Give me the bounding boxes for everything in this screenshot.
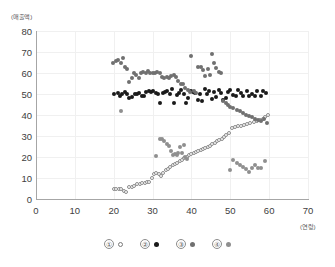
legend-series-number: ③ [176, 239, 186, 249]
gridline-horizontal [36, 52, 308, 53]
data-point-series-4 [247, 170, 251, 174]
legend-item-2[interactable]: ② [140, 239, 159, 249]
data-point-series-2 [125, 92, 129, 96]
y-tick-label: 20 [8, 152, 32, 163]
y-tick-label: 40 [8, 110, 32, 121]
x-axis-line [36, 199, 309, 200]
y-axis-unit-label: (매출액) [11, 12, 32, 21]
scatter-chart-figure: (매출액) 01020304050607080 010203040506070 … [0, 0, 335, 267]
y-tick-label: 80 [8, 26, 32, 37]
data-point-series-2 [168, 92, 172, 96]
legend-item-4[interactable]: ④ [212, 239, 231, 249]
data-point-series-1 [150, 176, 154, 180]
data-point-series-4 [185, 157, 189, 161]
legend-item-1[interactable]: ① [104, 239, 123, 249]
data-point-series-2 [198, 92, 202, 96]
legend-series-number: ① [104, 239, 114, 249]
x-tick-label: 50 [218, 205, 242, 216]
data-point-series-3 [181, 82, 185, 86]
legend-marker-icon [190, 242, 195, 247]
gridline-horizontal [36, 157, 308, 158]
y-tick-label: 10 [8, 173, 32, 184]
y-tick-label: 30 [8, 131, 32, 142]
data-point-series-3 [210, 52, 214, 56]
legend-marker-icon [226, 242, 231, 247]
y-tick-label: 70 [8, 47, 32, 58]
gridline-vertical [230, 31, 231, 199]
legend-item-3[interactable]: ③ [176, 239, 195, 249]
data-point-series-1 [124, 190, 128, 194]
x-tick-label: 30 [141, 205, 165, 216]
data-point-series-4 [228, 168, 232, 172]
y-axis-line [36, 31, 37, 200]
data-point-series-2 [259, 94, 263, 98]
y-tick-label: 60 [8, 68, 32, 79]
data-point-series-2 [210, 97, 214, 101]
data-point-series-4 [167, 144, 171, 148]
legend-marker-icon [118, 242, 123, 247]
data-point-series-3 [125, 67, 129, 71]
data-point-series-2 [196, 98, 200, 102]
x-tick-label: 60 [257, 205, 281, 216]
x-axis-unit-label: (연령) [300, 222, 315, 231]
data-point-series-3 [212, 61, 216, 65]
gridline-vertical [308, 31, 309, 199]
legend-marker-icon [154, 242, 159, 247]
x-tick-label: 20 [102, 205, 126, 216]
y-axis-tick-labels: 01020304050607080 [6, 31, 32, 200]
plot-area [36, 31, 308, 199]
x-tick-label: 40 [179, 205, 203, 216]
data-point-series-3 [194, 91, 198, 95]
data-point-series-2 [203, 87, 207, 91]
data-point-series-3 [265, 121, 269, 125]
gridline-horizontal [36, 31, 308, 32]
x-axis-tick-labels: 010203040506070 [36, 205, 309, 221]
data-point-series-3 [130, 76, 134, 80]
x-tick-label: 0 [24, 205, 48, 216]
y-tick-label: 0 [8, 194, 32, 205]
data-point-series-3 [174, 75, 178, 79]
gridline-vertical [114, 31, 115, 199]
data-point-series-1 [266, 113, 270, 117]
x-tick-label: 10 [63, 205, 87, 216]
x-tick-label: 70 [296, 205, 320, 216]
legend-series-number: ④ [212, 239, 222, 249]
legend-series-number: ② [140, 239, 150, 249]
data-point-series-3 [119, 61, 123, 65]
data-point-series-2 [234, 94, 238, 98]
y-tick-label: 50 [8, 89, 32, 100]
data-point-series-4 [182, 143, 186, 147]
gridline-horizontal [36, 178, 308, 179]
data-point-series-2 [212, 90, 216, 94]
gridline-horizontal [36, 136, 308, 137]
gridline-vertical [75, 31, 76, 199]
chart-legend: ①②③④ [0, 239, 335, 249]
data-point-series-3 [206, 67, 210, 71]
